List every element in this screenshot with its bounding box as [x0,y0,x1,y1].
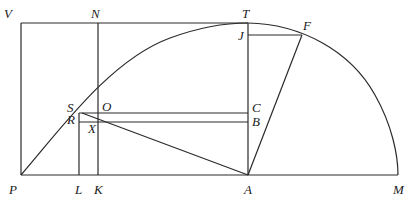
label-O: O [102,99,112,114]
label-C: C [252,100,261,115]
geometry-diagram: V N T F J S O R X C B P L K A M [0,0,413,200]
label-F: F [302,18,312,33]
label-M: M [392,182,405,197]
curve-PTM [21,23,398,175]
label-L: L [74,182,82,197]
label-A: A [243,182,252,197]
label-T: T [242,6,250,21]
label-J: J [238,28,245,43]
label-B: B [252,114,260,129]
label-X: X [87,121,97,136]
label-N: N [90,6,101,21]
label-R: R [66,112,75,127]
label-V: V [4,6,14,21]
label-K: K [93,182,104,197]
label-P: P [8,182,17,197]
